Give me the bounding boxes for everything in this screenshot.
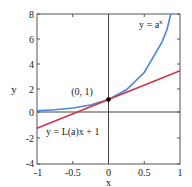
x-tick-label: -0.5 [65,167,81,178]
x-tick-label: -1 [34,167,42,178]
point-label: (0, 1) [71,86,93,98]
x-tick-label: 1 [178,167,183,178]
y-tick-label: 0 [29,107,34,118]
line-label: y = L(a)x + 1 [46,126,100,138]
y-tick-label: -4 [26,158,34,169]
y-tick-label: -2 [26,133,34,144]
tangent-point [106,97,111,102]
y-tick-labels: 8 6 4 2 0 -2 -4 [26,9,34,169]
curve-label: y = ax [139,18,163,30]
y-tick-label: 8 [29,9,34,20]
y-tick-label: 4 [29,59,34,70]
chart: 8 6 4 2 0 -2 -4 -1 -0.5 0 0.5 1 x y y = … [0,0,192,187]
x-tick-label: 0.5 [138,167,151,178]
y-axis-label: y [11,83,17,95]
y-tick-label: 2 [29,84,34,95]
y-tick-label: 6 [29,34,34,45]
x-axis-label: x [106,176,112,187]
